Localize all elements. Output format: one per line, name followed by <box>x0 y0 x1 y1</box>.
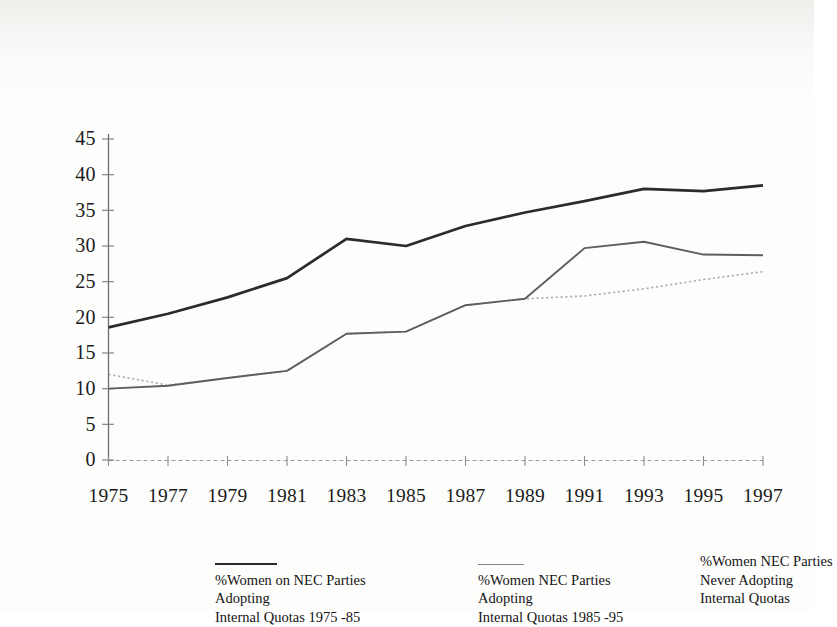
legend-item-never-adopting: %Women NEC Parties Never Adopting Intern… <box>700 552 833 608</box>
legend-label-line-3: Internal Quotas 1975 -85 <box>215 608 366 627</box>
legend-line-swatch-solid-light <box>478 563 540 569</box>
legend-label-line-1: %Women NEC Parties <box>478 571 623 590</box>
x-tick-label: 1997 <box>731 486 795 506</box>
legend-label-line-3: Internal Quotas 1985 -95 <box>478 608 623 627</box>
series-line-adopting-1975-85 <box>109 185 764 327</box>
x-tick-label: 1983 <box>315 486 379 506</box>
legend-item-label: %Women NEC Parties Adopting Internal Quo… <box>478 571 623 627</box>
legend-item-adopting-1985-95: %Women NEC Parties Adopting Internal Quo… <box>478 552 623 626</box>
x-tick-label: 1981 <box>255 486 319 506</box>
y-tick-label: 10 <box>54 378 96 398</box>
chart-plot-area <box>40 16 837 627</box>
legend-label-line-2: Adopting <box>478 589 623 608</box>
legend-label-line-3: Internal Quotas <box>700 589 833 608</box>
series-line-adopting-1985-95 <box>109 242 764 389</box>
legend-label-line-1: %Women on NEC Parties <box>215 571 366 590</box>
x-tick-label: 1987 <box>434 486 498 506</box>
series-line-never-adopting <box>109 272 764 385</box>
x-tick-label: 1977 <box>136 486 200 506</box>
chart-legend: %Women on NEC Parties Adopting Internal … <box>40 552 837 627</box>
legend-item-label: %Women NEC Parties Never Adopting Intern… <box>700 552 833 608</box>
y-tick-label: 35 <box>54 200 96 220</box>
legend-line-swatch-solid-heavy <box>215 563 277 569</box>
y-tick-label: 45 <box>54 128 96 148</box>
y-tick-label: 0 <box>54 449 96 469</box>
y-tick-label: 20 <box>54 307 96 327</box>
x-tick-label: 1985 <box>374 486 438 506</box>
line-chart-figure: 45 40 35 30 25 20 15 10 5 0 1975 1977 19… <box>40 16 837 627</box>
x-tick-label: 1993 <box>612 486 676 506</box>
legend-label-line-1: %Women NEC Parties <box>700 552 833 571</box>
y-tick-label: 5 <box>54 414 96 434</box>
x-tick-label: 1991 <box>553 486 617 506</box>
y-tick-label: 15 <box>54 342 96 362</box>
y-tick-label: 40 <box>54 164 96 184</box>
legend-item-label: %Women on NEC Parties Adopting Internal … <box>215 571 366 627</box>
legend-item-adopting-1975-85: %Women on NEC Parties Adopting Internal … <box>215 552 366 626</box>
y-tick-label: 30 <box>54 235 96 255</box>
y-tick-label: 25 <box>54 271 96 291</box>
legend-label-line-2: Adopting <box>215 589 366 608</box>
x-tick-label: 1995 <box>672 486 736 506</box>
x-tick-label: 1989 <box>493 486 557 506</box>
x-tick-label: 1979 <box>196 486 260 506</box>
x-tick-label: 1975 <box>77 486 141 506</box>
legend-label-line-2: Never Adopting <box>700 571 833 590</box>
